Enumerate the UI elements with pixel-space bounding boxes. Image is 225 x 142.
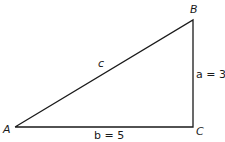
vertex-label-b: B bbox=[190, 4, 198, 15]
side-label-b: b = 5 bbox=[94, 130, 124, 141]
triangle-figure bbox=[0, 0, 225, 142]
side-label-a: a = 3 bbox=[196, 69, 225, 80]
side-label-c: c bbox=[98, 58, 104, 69]
vertex-label-a: A bbox=[3, 124, 11, 135]
vertex-label-c: C bbox=[196, 126, 204, 137]
triangle-outline bbox=[15, 20, 193, 127]
